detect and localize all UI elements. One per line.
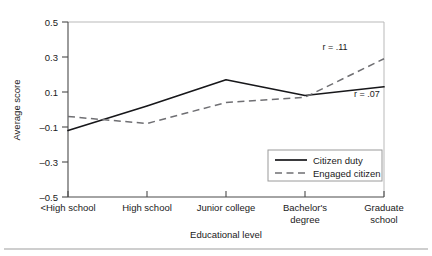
- legend: Citizen duty Engaged citizen: [268, 150, 382, 181]
- y-tick-labels: 0.5 0.3 0.1 –0.1 –0.3 –0.5: [40, 17, 59, 203]
- y-tick-label: –0.5: [40, 192, 59, 203]
- y-axis-title: Average score: [11, 79, 22, 140]
- series-line-citizen-duty: [68, 80, 384, 131]
- x-tick-label-3-line1: Bachelor's: [283, 202, 327, 213]
- y-tick-marks: [62, 22, 68, 197]
- y-tick-label: 0.1: [45, 87, 58, 98]
- annotation-r-engaged-citizen: r = .11: [322, 42, 347, 52]
- y-tick-label: –0.1: [40, 122, 59, 133]
- legend-label-engaged-citizen: Engaged citizen: [313, 168, 381, 179]
- x-category-labels: <High school High school Junior college …: [40, 202, 403, 225]
- figure-container: 0.5 0.3 0.1 –0.1 –0.3 –0.5 <High school …: [0, 0, 432, 256]
- line-chart: 0.5 0.3 0.1 –0.1 –0.3 –0.5 <High school …: [0, 0, 432, 256]
- x-tick-label-3-line2: degree: [290, 214, 320, 225]
- x-tick-label-4-line1: Graduate: [364, 202, 404, 213]
- x-tick-label-1: High school: [122, 202, 172, 213]
- annotation-r-citizen-duty: r = .07: [354, 89, 380, 99]
- y-tick-label: 0.5: [45, 17, 58, 28]
- legend-label-citizen-duty: Citizen duty: [313, 155, 363, 166]
- y-tick-label: 0.3: [45, 52, 58, 63]
- series-line-engaged-citizen: [68, 59, 384, 124]
- x-tick-label-0: <High school: [40, 202, 95, 213]
- x-tick-label-4-line2: school: [370, 214, 397, 225]
- x-tick-marks: [68, 191, 384, 197]
- x-axis-title: Educational level: [190, 229, 262, 240]
- x-tick-label-2: Junior college: [197, 202, 256, 213]
- y-tick-label: –0.3: [40, 157, 59, 168]
